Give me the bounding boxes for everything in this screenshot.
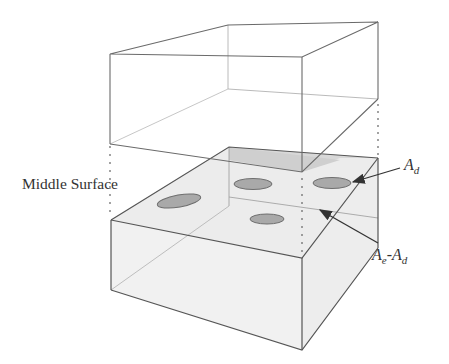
minus-hole-symbol: -A xyxy=(387,246,402,263)
hole-area-symbol: A xyxy=(404,156,414,173)
hole-area-label: Ad xyxy=(404,156,419,176)
middle-surface-label: Middle Surface xyxy=(22,175,118,193)
hole-ellipse xyxy=(250,214,284,224)
minus-hole-subscript: d xyxy=(402,254,408,266)
hole-ellipse xyxy=(234,179,272,190)
element-area-symbol: A xyxy=(372,246,382,263)
net-area-label: Ae-Ad xyxy=(372,246,407,266)
hole-ellipse xyxy=(313,178,351,189)
hole-area-subscript: d xyxy=(414,164,420,176)
